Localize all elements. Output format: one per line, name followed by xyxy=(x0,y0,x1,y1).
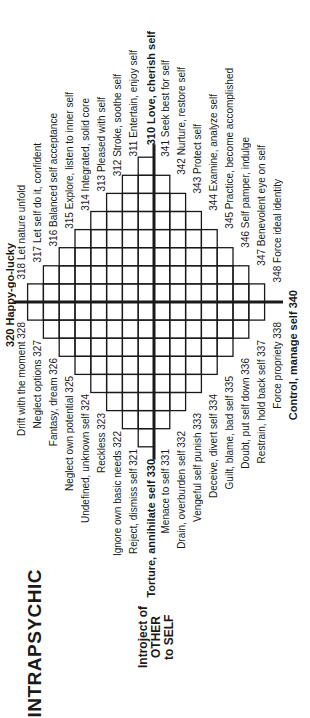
grid-cell xyxy=(154,175,170,193)
grid-cell xyxy=(138,212,154,230)
grid-cell xyxy=(59,284,75,302)
grid-cell xyxy=(154,302,170,320)
grid-cell xyxy=(201,266,217,284)
grid-cell xyxy=(233,266,249,284)
grid-cell xyxy=(138,320,154,338)
grid-cell xyxy=(138,429,154,447)
grid-cell xyxy=(75,302,91,320)
grid-cell xyxy=(59,248,75,266)
grid-cell xyxy=(233,320,249,338)
subtitle-line-3: to SELF xyxy=(162,614,176,659)
grid-cell xyxy=(122,411,138,429)
grid-cell xyxy=(91,284,107,302)
grid-cell xyxy=(107,284,123,302)
label-312: 312 Stroke, soothe self xyxy=(112,74,124,176)
subtitle-line-2: OTHER xyxy=(149,616,163,658)
grid-cell xyxy=(201,248,217,266)
grid-cell xyxy=(154,212,170,230)
grid-cell xyxy=(75,248,91,266)
label-332: Drain, overburden self 332 xyxy=(176,431,188,549)
grid-cell xyxy=(217,320,233,338)
grid-cell xyxy=(91,230,107,248)
grid-cell xyxy=(154,374,170,392)
grid-cell xyxy=(122,230,138,248)
grid-cell xyxy=(154,230,170,248)
grid-cell xyxy=(170,193,186,211)
grid-cell xyxy=(122,193,138,211)
pole-right-label: Control, manage self 340 xyxy=(287,290,300,420)
grid-cell xyxy=(154,248,170,266)
grid-cell xyxy=(201,356,217,374)
grid-cell xyxy=(107,193,123,211)
label-333: Vengeful self punish 333 xyxy=(192,413,204,522)
grid-cell xyxy=(107,248,123,266)
pole-top-label: 310 Love, cherish self xyxy=(145,31,158,145)
grid-cell xyxy=(138,374,154,392)
grid-cell xyxy=(138,338,154,356)
grid-cell xyxy=(59,302,75,320)
grid-cell xyxy=(107,266,123,284)
grid-cell xyxy=(107,374,123,392)
grid-cell xyxy=(217,338,233,356)
grid-cell xyxy=(186,356,202,374)
grid-cell xyxy=(91,212,107,230)
grid-cell xyxy=(170,230,186,248)
subtitle: Introject of OTHER to SELF xyxy=(137,606,176,668)
grid-cell xyxy=(107,320,123,338)
grid-cell xyxy=(186,284,202,302)
label-328: Drift with the moment 328 xyxy=(16,322,28,436)
grid-cell xyxy=(122,320,138,338)
grid-cell xyxy=(107,230,123,248)
grid-cell xyxy=(154,411,170,429)
grid-cell xyxy=(201,302,217,320)
grid-cell xyxy=(186,320,202,338)
grid-cell xyxy=(91,302,107,320)
grid-cell xyxy=(91,266,107,284)
subtitle-line-1: Introject of xyxy=(136,606,150,668)
grid-cell xyxy=(249,284,265,302)
grid-cell xyxy=(28,302,44,320)
grid-cell xyxy=(138,266,154,284)
grid-cell xyxy=(201,284,217,302)
grid-cell xyxy=(43,266,59,284)
grid-cell xyxy=(91,356,107,374)
grid-cell xyxy=(186,302,202,320)
grid-cell xyxy=(217,302,233,320)
grid-cell xyxy=(154,338,170,356)
label-314: 314 Integrated, solid core xyxy=(80,98,92,211)
grid-cell xyxy=(170,284,186,302)
grid-cell xyxy=(75,284,91,302)
label-321: Reject, dismiss self 321 xyxy=(128,449,140,554)
grid-cell xyxy=(170,356,186,374)
grid-cell xyxy=(107,338,123,356)
grid-cell xyxy=(43,284,59,302)
label-335: Guilt, blame, bad self 335 xyxy=(224,376,236,489)
grid-cell xyxy=(170,212,186,230)
grid-cell xyxy=(91,320,107,338)
grid-cell xyxy=(154,356,170,374)
label-311: 311 Entertain, enjoy self xyxy=(128,50,140,157)
grid-cell xyxy=(91,338,107,356)
grid-cell xyxy=(201,320,217,338)
label-338: Force propriety 338 xyxy=(272,322,284,409)
label-346: 346 Self pamper, indulge xyxy=(240,137,252,248)
grid-cell xyxy=(201,338,217,356)
grid-cell xyxy=(170,338,186,356)
grid-cell xyxy=(186,248,202,266)
pole-bottom-label: Torture, annihilate self 330 xyxy=(145,459,158,598)
label-337: Restrain, hold back self 337 xyxy=(256,340,268,463)
grid-cell xyxy=(233,302,249,320)
grid-cell xyxy=(154,393,170,411)
label-313: 313 Pleased with self xyxy=(96,97,108,192)
grid-cell xyxy=(217,266,233,284)
grid-cell xyxy=(154,320,170,338)
grid-cell xyxy=(43,302,59,320)
label-326: Fantasy, dream 326 xyxy=(48,358,60,446)
label-317: 317 Let self do it, confident xyxy=(32,143,44,263)
label-325: Neglect own potential 325 xyxy=(64,376,76,491)
grid-cell xyxy=(122,248,138,266)
grid-cell xyxy=(122,212,138,230)
label-344: 344 Examine, analyze self xyxy=(208,94,220,211)
label-348: 348 Force ideal identity xyxy=(272,179,284,282)
label-336: Doubt, put self down 336 xyxy=(240,358,252,469)
